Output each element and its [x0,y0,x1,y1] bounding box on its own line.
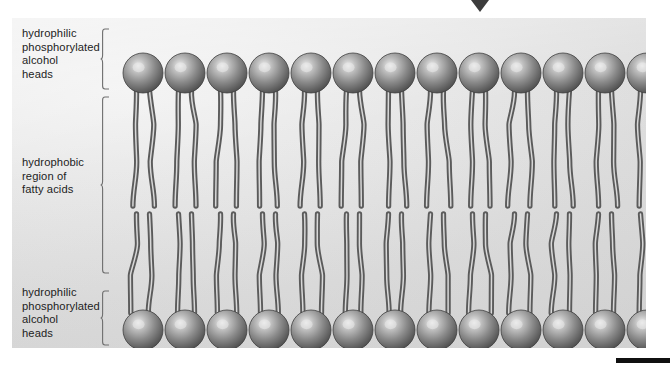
phospholipid-bilayer-diagram-panel: hydrophilic phosphorylated alcohol heads… [12,18,646,348]
down-pointer-triangle-icon [471,0,489,12]
phospholipid-head-lower-6 [375,310,415,348]
phospholipid-head-upper-0 [123,53,163,93]
phospholipid-head-upper-1 [165,53,205,93]
phospholipid-head-lower-10 [543,310,583,348]
phospholipid-head-upper-4 [291,53,331,93]
phospholipid-head-upper-11 [585,53,625,93]
phospholipid-head-lower-0 [123,310,163,348]
bottom-right-rule [616,358,670,363]
fatty-acid-tail-lower-10-b-highlight [569,214,570,313]
phospholipid-head-lower-3 [249,310,289,348]
phospholipid-head-lower-2 [207,310,247,348]
phospholipid-head-upper-3 [249,53,289,93]
phospholipid-head-upper-10 [543,53,583,93]
phospholipid-head-lower-9 [501,310,541,348]
phospholipid-head-lower-4 [291,310,331,348]
phospholipid-head-upper-8 [459,53,499,93]
phospholipid-head-lower-8 [459,310,499,348]
phospholipid-bilayer [12,18,646,348]
fatty-acid-tails-group [130,90,646,313]
bilayer-canvas [12,18,646,348]
phospholipid-head-upper-2 [207,53,247,93]
phospholipid-head-lower-5 [333,310,373,348]
phospholipid-head-upper-7 [417,53,457,93]
phospholipid-head-upper-9 [501,53,541,93]
phospholipid-head-upper-5 [333,53,373,93]
phospholipid-head-upper-6 [375,53,415,93]
phospholipid-head-lower-1 [165,310,205,348]
phospholipid-head-lower-11 [585,310,625,348]
phospholipid-head-lower-7 [417,310,457,348]
phospholipid-head-upper-12 [627,53,646,93]
phospholipid-head-lower-12 [627,310,646,348]
